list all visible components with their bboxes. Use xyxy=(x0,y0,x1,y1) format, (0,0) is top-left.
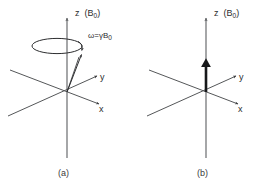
panel-b-group: z (B0) y x (b) xyxy=(147,8,244,178)
panel-a-y-axis-label: y xyxy=(100,72,105,82)
panel-b-y-axis xyxy=(147,76,236,116)
panel-b-y-axis-label: y xyxy=(239,72,244,82)
panel-a-x-axis-label: x xyxy=(99,104,104,114)
panel-b-caption: (b) xyxy=(197,168,208,178)
panel-b-x-axis xyxy=(149,70,238,104)
panel-a-group: z (B0) y x ω=γB0 (a) xyxy=(8,8,112,178)
panel-a-caption: (a) xyxy=(58,168,69,178)
panel-a-y-axis xyxy=(8,76,97,116)
figure-canvas: z (B0) y x ω=γB0 (a) xyxy=(0,0,258,187)
panel-a-precession-ellipse xyxy=(32,38,82,53)
panel-b-x-axis-label: x xyxy=(238,104,243,114)
panel-a-z-axis-label: z (B0) xyxy=(75,8,100,19)
panel-a-x-axis xyxy=(10,70,99,104)
panel-a-precession-frequency-label: ω=γB0 xyxy=(88,31,112,41)
panel-b-z-axis-label: z (B0) xyxy=(214,8,239,19)
nmr-precession-figure: z (B0) y x ω=γB0 (a) xyxy=(0,0,258,187)
